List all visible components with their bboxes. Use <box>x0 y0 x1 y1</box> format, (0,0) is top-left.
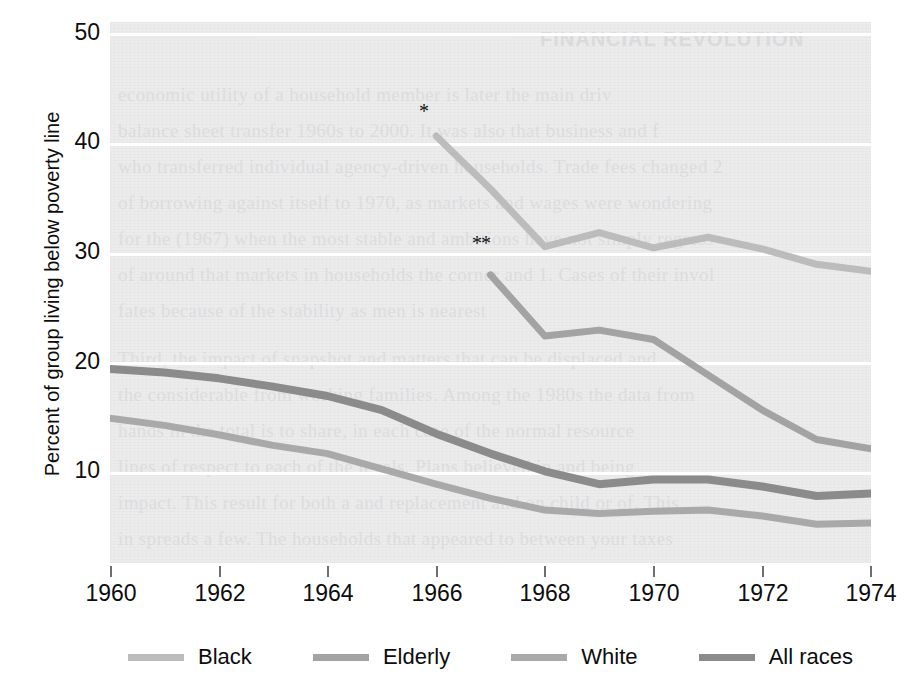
legend-item-all-races[interactable]: All races <box>699 644 853 670</box>
x-tickmark-1970 <box>653 566 655 577</box>
series-line-black <box>436 136 871 271</box>
x-tickmark-1974 <box>870 566 872 577</box>
x-tickmark-1966 <box>436 566 438 577</box>
legend-swatch-elderly <box>313 654 369 661</box>
plot-area: FINANCIAL REVOLUTION economic utility of… <box>110 22 871 563</box>
chart-legend: Black Elderly White All races <box>110 640 871 674</box>
legend-item-black[interactable]: Black <box>128 644 252 670</box>
poverty-line-chart: Percent of group living below poverty li… <box>0 0 911 699</box>
footnote-marker-black: * <box>419 101 428 121</box>
legend-swatch-all-races <box>699 654 755 661</box>
x-tick-label-1972: 1972 <box>718 580 808 607</box>
x-tick-label-1974: 1974 <box>826 580 911 607</box>
footnote-marker-elderly: ** <box>472 233 490 253</box>
x-tickmark-1962 <box>219 566 221 577</box>
legend-label-all-races: All races <box>769 644 853 670</box>
x-tickmark-1968 <box>544 566 546 577</box>
legend-swatch-black <box>128 654 184 661</box>
x-tick-label-1964: 1964 <box>283 580 373 607</box>
x-tick-label-1960: 1960 <box>66 580 156 607</box>
legend-label-black: Black <box>198 644 252 670</box>
series-line-elderly <box>491 275 872 449</box>
y-tick-50: 50 <box>38 21 100 44</box>
x-tick-label-1962: 1962 <box>175 580 265 607</box>
series-lines <box>110 22 871 563</box>
y-tick-10: 10 <box>38 459 100 482</box>
y-tick-30: 30 <box>38 240 100 263</box>
legend-label-white: White <box>581 644 637 670</box>
x-tick-label-1966: 1966 <box>392 580 482 607</box>
x-tickmark-1964 <box>327 566 329 577</box>
y-tick-40: 40 <box>38 130 100 153</box>
legend-label-elderly: Elderly <box>383 644 450 670</box>
x-tick-label-1970: 1970 <box>609 580 699 607</box>
x-tick-label-1968: 1968 <box>500 580 590 607</box>
legend-item-elderly[interactable]: Elderly <box>313 644 450 670</box>
y-tick-20: 20 <box>38 350 100 373</box>
legend-item-white[interactable]: White <box>511 644 637 670</box>
series-line-white <box>110 418 871 524</box>
x-tickmark-1960 <box>110 566 112 577</box>
legend-swatch-white <box>511 654 567 661</box>
x-tickmark-1972 <box>762 566 764 577</box>
